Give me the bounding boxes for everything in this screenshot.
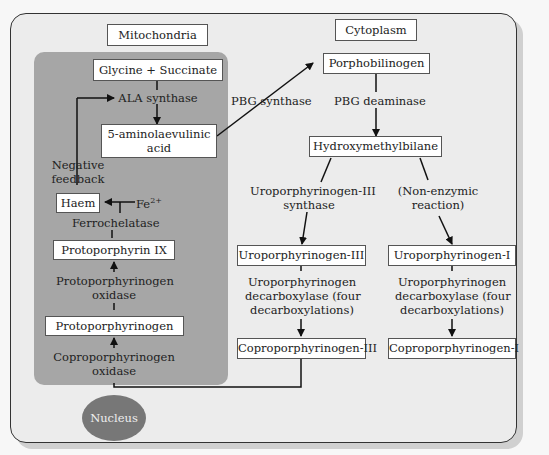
- label-fe: Fe: [136, 197, 150, 211]
- label-uro3s-line2: synthase: [250, 198, 368, 212]
- label-urod-iii: Uroporphyrinogen decarboxylase (four dec…: [245, 275, 359, 317]
- label-ala-synthase: ALA synthase: [116, 91, 200, 105]
- node-uroporphyrinogen-iii: Uroporphyrinogen-III: [237, 245, 366, 266]
- node-glycine-succinate: Glycine + Succinate: [93, 59, 223, 81]
- label-urod-iii-line3: decarboxylations): [245, 303, 359, 317]
- label-coprox-line2: oxidase: [52, 364, 176, 378]
- label-negative-feedback: Negative feedback: [50, 158, 106, 186]
- label-feedback: feedback: [50, 172, 106, 186]
- label-protoporphyrinogen-oxidase: Protoporphyrinogen oxidase: [56, 274, 172, 302]
- label-pbg-synthase: PBG synthase: [231, 94, 311, 108]
- label-fe2plus: Fe2+: [136, 194, 162, 211]
- label-protox-line1: Protoporphyrinogen: [56, 274, 172, 288]
- node-haem: Haem: [56, 193, 100, 213]
- node-ala-line1: 5-aminolaevulinic: [102, 127, 216, 141]
- label-fe-charge: 2+: [150, 196, 162, 205]
- label-negative: Negative: [50, 158, 106, 172]
- label-nonenz-line1: (Non-enzymic: [396, 184, 480, 198]
- node-porphobilinogen: Porphobilinogen: [323, 53, 430, 74]
- label-urod-iii-line1: Uroporphyrinogen: [245, 275, 359, 289]
- label-coprox-line1: Coproporphyrinogen: [52, 350, 176, 364]
- node-coproporphyrinogen-i: Coproporphyrinogen-I: [388, 338, 516, 359]
- label-non-enzymic-reaction: (Non-enzymic reaction): [396, 184, 480, 212]
- label-ferrochelatase: Ferrochelatase: [72, 216, 156, 230]
- label-uroporphyrinogen-iii-synthase: Uroporphyrinogen-III synthase: [250, 184, 368, 212]
- label-nonenz-line2: reaction): [396, 198, 480, 212]
- node-uroporphyrinogen-i: Uroporphyrinogen-I: [388, 245, 516, 266]
- label-coproporphyrinogen-oxidase: Coproporphyrinogen oxidase: [52, 350, 176, 378]
- label-protox-line2: oxidase: [56, 288, 172, 302]
- node-5-aminolaevulinic-acid: 5-aminolaevulinic acid: [101, 124, 217, 158]
- label-urod-i: Uroporphyrinogen decarboxylase (four dec…: [395, 275, 509, 317]
- node-protoporphyrin-ix: Protoporphyrin IX: [53, 240, 175, 260]
- node-hydroxymethylbilane: Hydroxymethylbilane: [309, 136, 442, 157]
- label-urod-iii-line2: decarboxylase (four: [245, 289, 359, 303]
- label-urod-i-line1: Uroporphyrinogen: [395, 275, 509, 289]
- node-protoporphyrinogen: Protoporphyrinogen: [45, 316, 184, 336]
- label-urod-i-line3: decarboxylations): [395, 303, 509, 317]
- node-ala-line2: acid: [102, 141, 216, 155]
- label-uro3s-line1: Uroporphyrinogen-III: [250, 184, 368, 198]
- label-urod-i-line2: decarboxylase (four: [395, 289, 509, 303]
- label-pbg-deaminase: PBG deaminase: [334, 94, 418, 108]
- node-coproporphyrinogen-iii: Coproporphyrinogen-III: [237, 338, 366, 359]
